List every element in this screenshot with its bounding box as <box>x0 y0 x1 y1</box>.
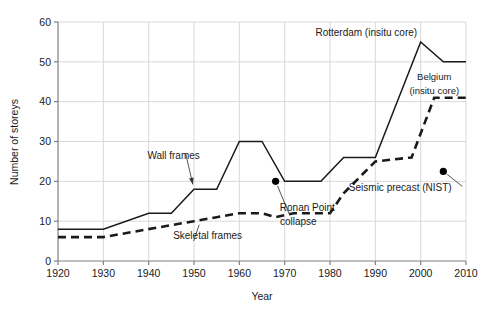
y-axis-title: Number of storeys <box>8 99 20 185</box>
x-tick-label: 1930 <box>92 267 116 279</box>
annotation-wall-frames: Wall frames <box>147 150 199 161</box>
x-tick-label: 1970 <box>273 267 297 279</box>
y-tick-label: 30 <box>39 135 51 147</box>
y-tick-label: 60 <box>39 16 51 28</box>
x-tick-label: 1960 <box>228 267 252 279</box>
x-tick-label: 1980 <box>318 267 342 279</box>
annotation-seismic-precast-nist: Seismic precast (NIST) <box>349 182 452 193</box>
x-tick-label: 2000 <box>409 267 433 279</box>
y-tick-label: 50 <box>39 56 51 68</box>
annotation-ronan-point-line1: Ronan Point <box>280 202 335 213</box>
x-tick-label: 2010 <box>454 267 478 279</box>
x-tick-label: 1920 <box>46 267 70 279</box>
annotation-skeletal-frames: Skeletal frames <box>173 230 242 241</box>
y-tick-label: 40 <box>39 95 51 107</box>
y-tick-label: 20 <box>39 175 51 187</box>
storeys-vs-year-line-chart: 0102030405060192019301940195019601970198… <box>0 0 494 311</box>
x-axis-title: Year <box>251 290 273 302</box>
x-tick-label: 1940 <box>137 267 161 279</box>
y-tick-label: 10 <box>39 215 51 227</box>
chart-background <box>0 0 494 311</box>
event-point-ronan-point-collapse <box>272 178 279 185</box>
x-tick-label: 1950 <box>182 267 206 279</box>
annotation-ronan-point-line2: collapse <box>280 216 317 227</box>
chart-container: 0102030405060192019301940195019601970198… <box>0 0 494 311</box>
x-tick-label: 1990 <box>364 267 388 279</box>
annotation-rotterdam: Rotterdam (insitu core) <box>315 27 417 38</box>
y-tick-label: 0 <box>45 255 51 267</box>
annotation-belgium-line1: Belgium <box>417 71 451 82</box>
event-point-seismic-precast-nist <box>440 168 447 175</box>
annotation-belgium-line2: (insitu core) <box>409 85 459 96</box>
